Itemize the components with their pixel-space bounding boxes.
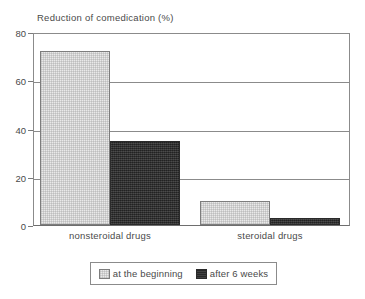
chart-title: Reduction of comedication (%)	[37, 12, 174, 23]
y-tick-label-20: 20	[0, 172, 26, 183]
chart-legend: at the beginning after 6 weeks	[90, 262, 277, 285]
x-category-label-steroidal: steroidal drugs	[199, 230, 341, 241]
y-tick-label-80: 80	[0, 28, 26, 39]
legend-swatch-dark-icon	[196, 269, 207, 279]
legend-swatch-light-icon	[99, 269, 110, 279]
bar-steroidal-at-the-beginning	[200, 201, 270, 225]
legend-entry-at-the-beginning: at the beginning	[99, 268, 183, 279]
y-tick-label-0: 0	[0, 221, 26, 232]
y-tick-label-40: 40	[0, 124, 26, 135]
legend-entry-after-6-weeks: after 6 weeks	[196, 268, 268, 279]
y-tick-label-60: 60	[0, 76, 26, 87]
plot-area	[33, 33, 350, 226]
x-category-label-nonsteroidal: nonsteroidal drugs	[39, 230, 181, 241]
y-tick-mark-0	[28, 226, 33, 227]
legend-label-after-6-weeks: after 6 weeks	[210, 268, 268, 279]
bar-nonsteroidal-after-6-weeks	[110, 141, 180, 225]
bar-nonsteroidal-at-the-beginning	[40, 51, 110, 225]
bar-steroidal-after-6-weeks	[270, 218, 340, 225]
legend-label-at-the-beginning: at the beginning	[113, 268, 183, 279]
bar-chart-figure: Reduction of comedication (%) 0 20 40 60…	[0, 0, 365, 299]
